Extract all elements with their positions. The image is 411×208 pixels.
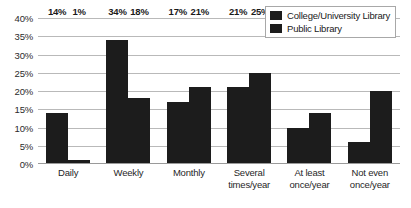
- x-category-label: At leastonce/year: [279, 167, 339, 190]
- x-category-label: Daily: [38, 167, 98, 190]
- bar-group: 34%18%: [98, 18, 158, 164]
- x-category-line: Not even: [340, 167, 400, 179]
- bar-group: 21%25%: [219, 18, 279, 164]
- x-category-line: Several: [219, 167, 279, 179]
- bar[interactable]: 10%: [287, 128, 309, 165]
- bar-item[interactable]: 17%: [167, 18, 189, 164]
- y-tick-label: 0%: [20, 159, 33, 170]
- bar-group: 14%1%: [38, 18, 98, 164]
- x-category-line: times/year: [219, 179, 279, 191]
- bar-item[interactable]: 6%: [348, 18, 370, 164]
- x-category-line: once/year: [279, 179, 339, 191]
- x-category-line: Monthly: [159, 167, 219, 179]
- legend-swatch-icon: [270, 11, 282, 20]
- legend-swatch-icon: [270, 24, 282, 33]
- axis-baseline: [38, 163, 400, 165]
- y-tick-label: 35%: [15, 31, 33, 42]
- bar-group: 6%20%: [340, 18, 400, 164]
- bar-item[interactable]: 21%: [227, 18, 249, 164]
- bar[interactable]: 21%: [227, 87, 249, 164]
- legend-item[interactable]: Public Library: [270, 23, 390, 34]
- plot-area: 14%1%34%18%17%21%21%25%10%14%6%20%: [38, 18, 400, 164]
- bar-item[interactable]: 25%: [249, 18, 271, 164]
- bar-group: 17%21%: [159, 18, 219, 164]
- bar-value-label: 34%: [108, 6, 126, 17]
- bar[interactable]: 14%: [309, 113, 331, 164]
- x-category-label: Severaltimes/year: [219, 167, 279, 190]
- y-tick-label: 20%: [15, 86, 33, 97]
- y-axis: 40%35%30%25%20%15%10%5%0%: [0, 0, 36, 208]
- x-category-line: At least: [279, 167, 339, 179]
- y-tick-label: 10%: [15, 122, 33, 133]
- bar-item[interactable]: 14%: [46, 18, 68, 164]
- y-tick-label: 40%: [15, 13, 33, 24]
- bar-item[interactable]: 20%: [370, 18, 392, 164]
- bar-value-label: 17%: [169, 6, 187, 17]
- bar[interactable]: 21%: [189, 87, 211, 164]
- x-category-line: once/year: [340, 179, 400, 191]
- y-tick-label: 30%: [15, 49, 33, 60]
- bar[interactable]: 25%: [249, 73, 271, 164]
- y-tick-label: 5%: [20, 140, 33, 151]
- x-category-label: Monthly: [159, 167, 219, 190]
- x-category-label: Not evenonce/year: [340, 167, 400, 190]
- bar-value-label: 1%: [72, 6, 85, 17]
- bar-group: 10%14%: [279, 18, 339, 164]
- bar-item[interactable]: 21%: [189, 18, 211, 164]
- bar-value-label: 14%: [48, 6, 66, 17]
- legend-item[interactable]: College/University Library: [270, 10, 390, 21]
- bar[interactable]: 18%: [128, 98, 150, 164]
- bar-groups: 14%1%34%18%17%21%21%25%10%14%6%20%: [38, 18, 400, 164]
- bar-item[interactable]: 14%: [309, 18, 331, 164]
- bar-item[interactable]: 34%: [106, 18, 128, 164]
- bar[interactable]: 20%: [370, 91, 392, 164]
- bar-item[interactable]: 1%: [68, 18, 90, 164]
- bar-item[interactable]: 10%: [287, 18, 309, 164]
- bar-item[interactable]: 18%: [128, 18, 150, 164]
- x-category-label: Weekly: [98, 167, 158, 190]
- bar[interactable]: 17%: [167, 102, 189, 164]
- bar[interactable]: 14%: [46, 113, 68, 164]
- bar[interactable]: 34%: [106, 40, 128, 164]
- bar[interactable]: 6%: [348, 142, 370, 164]
- bar-chart: 40%35%30%25%20%15%10%5%0% 14%1%34%18%17%…: [0, 0, 411, 208]
- legend-label: Public Library: [287, 23, 342, 34]
- y-tick-label: 15%: [15, 104, 33, 115]
- legend-label: College/University Library: [287, 10, 390, 21]
- legend: College/University LibraryPublic Library: [265, 6, 396, 38]
- bar-value-label: 21%: [229, 6, 247, 17]
- bar-value-label: 18%: [130, 6, 148, 17]
- y-tick-label: 25%: [15, 67, 33, 78]
- bar-value-label: 21%: [191, 6, 209, 17]
- x-category-line: Weekly: [98, 167, 158, 179]
- x-category-line: Daily: [38, 167, 98, 179]
- x-axis: DailyWeeklyMonthlySeveraltimes/yearAt le…: [38, 167, 400, 190]
